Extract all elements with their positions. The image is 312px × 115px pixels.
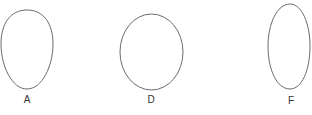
figure-background bbox=[0, 0, 312, 115]
shape-label-a: A bbox=[24, 94, 31, 105]
shapes-figure: A D F bbox=[0, 0, 312, 115]
shape-label-d: D bbox=[147, 94, 154, 105]
shape-label-f: F bbox=[288, 95, 294, 106]
